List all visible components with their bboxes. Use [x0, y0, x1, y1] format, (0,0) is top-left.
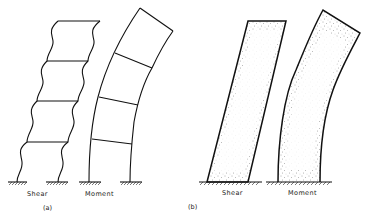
moment-wall	[278, 10, 360, 182]
moment-beam-3	[115, 53, 152, 68]
ground-supports-b	[199, 182, 332, 185]
ground-supports-a	[8, 182, 142, 185]
moment-beam-1	[92, 139, 132, 144]
caption-moment-a: Moment	[85, 190, 114, 198]
panel-label-b: (b)	[188, 203, 197, 211]
structural-deformation-diagram: Shear Moment (a)	[0, 0, 369, 219]
panel-b: Shear Moment (b)	[188, 10, 360, 211]
moment-beam-2	[99, 97, 138, 105]
panel-label-a: (a)	[43, 204, 52, 212]
moment-left-column	[89, 8, 140, 182]
shear-wall	[207, 21, 286, 182]
caption-shear-b: Shear	[222, 189, 243, 197]
shear-frame	[17, 21, 100, 182]
caption-shear-a: Shear	[27, 190, 48, 198]
panel-a: Shear Moment (a)	[8, 8, 173, 212]
moment-beam-roof	[140, 8, 173, 31]
moment-frame	[89, 8, 173, 182]
moment-right-column	[130, 31, 173, 182]
caption-moment-b: Moment	[288, 189, 317, 197]
